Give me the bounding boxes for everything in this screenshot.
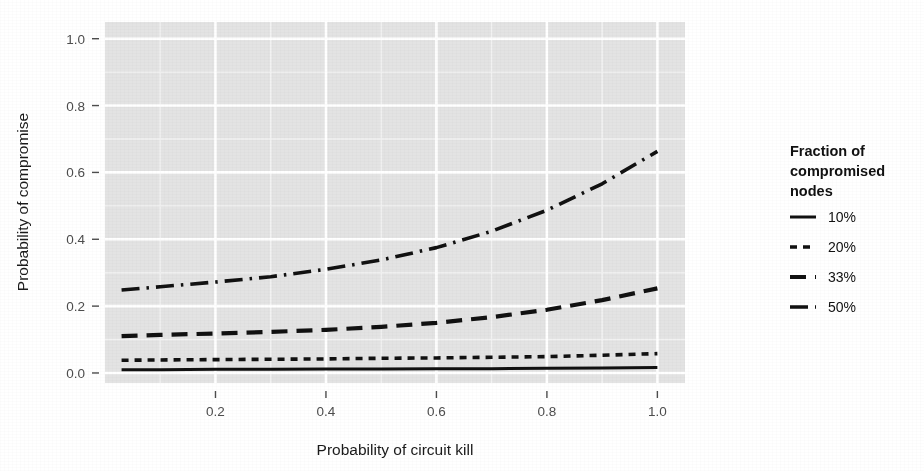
x-tick-label: 0.6: [427, 404, 446, 419]
legend-title-line-2: compromised: [790, 163, 885, 179]
x-tick-label: 1.0: [648, 404, 667, 419]
plot-panel: [105, 22, 685, 383]
y-tick-label: 0.4: [66, 232, 85, 247]
legend-label-10pct[interactable]: 10%: [828, 209, 856, 225]
y-tick-label: 1.0: [66, 32, 85, 47]
x-tick-label: 0.8: [538, 404, 557, 419]
line-chart: 0.20.40.60.81.00.00.20.40.60.81.0 Probab…: [0, 0, 924, 471]
legend-title-line-3: nodes: [790, 183, 833, 199]
legend-title-line-1: Fraction of: [790, 143, 865, 159]
x-tick-label: 0.2: [206, 404, 225, 419]
x-axis-title: Probability of circuit kill: [317, 441, 474, 458]
chart-figure: 0.20.40.60.81.00.00.20.40.60.81.0 Probab…: [0, 0, 924, 471]
y-tick-label: 0.8: [66, 99, 85, 114]
y-tick-label: 0.0: [66, 366, 85, 381]
series-line-10pct: [122, 368, 658, 370]
legend-label-33pct[interactable]: 33%: [828, 269, 856, 285]
y-tick-label: 0.6: [66, 165, 85, 180]
legend-label-20pct[interactable]: 20%: [828, 239, 856, 255]
legend-label-50pct[interactable]: 50%: [828, 299, 856, 315]
y-tick-label: 0.2: [66, 299, 85, 314]
y-axis-title: Probability of compromise: [14, 113, 31, 291]
x-tick-label: 0.4: [317, 404, 336, 419]
